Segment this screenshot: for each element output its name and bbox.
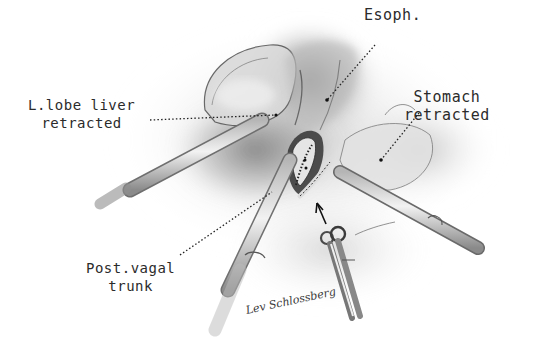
label-vagal-line2: trunk	[86, 277, 175, 295]
label-vagal-line1: Post.vagal	[86, 259, 175, 277]
label-liver-line2: retracted	[28, 114, 135, 132]
label-esophagus: Esoph.	[364, 6, 421, 24]
label-liver-line1: L.lobe liver	[28, 96, 135, 114]
label-stomach-line2: retracted	[404, 106, 490, 124]
label-stomach: Stomach retracted	[404, 88, 490, 124]
label-liver: L.lobe liver retracted	[28, 96, 135, 132]
surgical-illustration: Esoph. L.lobe liver retracted Stomach re…	[0, 0, 546, 360]
label-stomach-line1: Stomach	[404, 88, 490, 106]
label-vagal: Post.vagal trunk	[86, 259, 175, 295]
